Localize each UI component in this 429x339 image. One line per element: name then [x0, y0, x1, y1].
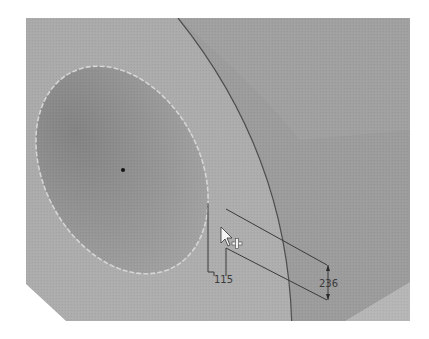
dimension-236-label[interactable]: 236: [319, 278, 338, 289]
model-geometry: [0, 0, 429, 339]
dimension-115-label[interactable]: 115: [214, 274, 233, 285]
cad-viewport[interactable]: 115 236: [0, 0, 429, 339]
